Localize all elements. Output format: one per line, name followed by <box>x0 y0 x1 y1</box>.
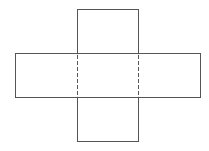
box-net-diagram <box>0 0 209 151</box>
top-face <box>78 10 139 54</box>
bottom-face <box>78 98 139 142</box>
right-face <box>139 54 201 98</box>
left-face <box>16 54 78 98</box>
